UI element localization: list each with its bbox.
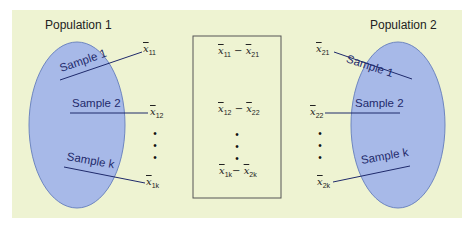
- p1-mean-k: x1k: [146, 176, 159, 189]
- p2-sample-2-label: Sample 2: [355, 97, 404, 109]
- p2-mean-k: x2k: [317, 176, 330, 189]
- p2-mean-1: x21: [316, 43, 329, 56]
- p1-ellipsis: • • •: [151, 128, 159, 164]
- p2-ellipsis: • • •: [316, 128, 324, 164]
- p1-mean-2: x12: [150, 106, 163, 119]
- p1-mean-1: x11: [143, 43, 156, 56]
- p1-sample-2-label: Sample 2: [72, 97, 121, 109]
- p2-mean-2: x22: [310, 106, 323, 119]
- population-1-title: Population 1: [45, 18, 112, 32]
- difference-2: x12 − x22: [218, 103, 260, 116]
- difference-1: x11 − x21: [218, 45, 259, 58]
- difference-k: x1k− x2k: [219, 165, 257, 178]
- diagram-shapes: [0, 0, 475, 233]
- difference-ellipsis: • • •: [233, 129, 241, 165]
- population-2-title: Population 2: [370, 18, 437, 32]
